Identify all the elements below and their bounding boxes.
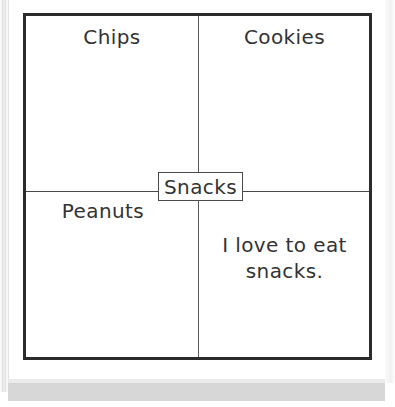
quadrant-top-right-label: Cookies [244, 24, 325, 50]
page-left-scan-line-1 [2, 0, 3, 392]
quadrant-top-right[interactable]: Cookies [200, 24, 369, 64]
quadrant-bottom-left-label: Peanuts [62, 198, 144, 224]
quadrant-bottom-right[interactable]: I love to eat snacks. [200, 232, 369, 312]
page-left-scan-line-3 [8, 0, 9, 392]
page-right-edge-artifact [385, 0, 395, 383]
quadrant-bottom-left[interactable]: Peanuts [26, 198, 198, 238]
diagram-frame: Chips Cookies Peanuts I love to eat snac… [23, 13, 372, 360]
center-topic-node[interactable]: Snacks [158, 172, 243, 201]
quadrant-top-left[interactable]: Chips [26, 24, 198, 64]
page-bottom-shadow [8, 383, 385, 401]
quadrant-top-left-label: Chips [83, 24, 140, 50]
page-left-scan-line-2 [5, 0, 6, 392]
worksheet-page: Chips Cookies Peanuts I love to eat snac… [0, 0, 395, 407]
center-topic-label: Snacks [164, 177, 237, 197]
quadrant-bottom-right-label: I love to eat snacks. [222, 232, 347, 285]
